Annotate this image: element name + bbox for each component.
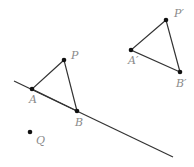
label-P: P <box>71 50 78 61</box>
point-A-prime <box>129 48 134 53</box>
diagram-canvas <box>0 0 194 167</box>
point-P <box>62 58 67 63</box>
point-Q <box>28 130 33 135</box>
geometry-diagram: P A B Q P′ A′ B′ <box>0 0 194 167</box>
label-P-prime: P′ <box>174 8 184 19</box>
label-Q: Q <box>36 135 45 146</box>
label-A: A <box>29 94 37 105</box>
label-B: B <box>75 117 83 128</box>
label-B-prime: B′ <box>176 78 187 89</box>
triangle-APB <box>32 60 77 111</box>
point-B-prime <box>178 70 183 75</box>
point-P-prime <box>164 18 169 23</box>
point-A <box>30 87 35 92</box>
point-B <box>75 109 80 114</box>
label-A-prime: A′ <box>128 55 138 66</box>
